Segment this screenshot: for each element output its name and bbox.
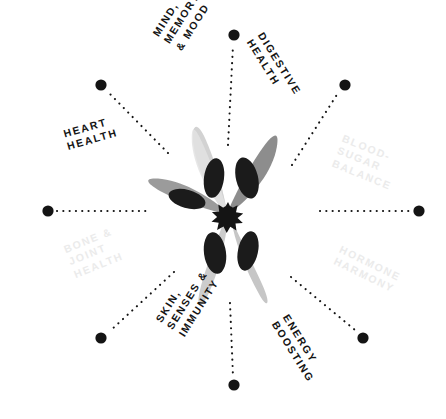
spoke-line-n [228, 45, 233, 145]
spoke-line-ese [291, 277, 355, 330]
spoke-dot-n[interactable] [228, 29, 239, 40]
diagram-canvas: Heart Health Mind, Memory & Mood Digesti… [0, 0, 446, 419]
spoke-dot-nnw[interactable] [95, 79, 106, 90]
spoke-dot-s[interactable] [228, 379, 239, 390]
spoke-dot-ene[interactable] [413, 205, 424, 216]
spoke-dot-wsw[interactable] [95, 332, 106, 343]
radial-diagram-graphic [0, 0, 446, 419]
spoke-dot-w[interactable] [42, 205, 53, 216]
spoke-line-nnw [110, 94, 168, 153]
spoke-line-nne [292, 93, 338, 165]
spoke-dot-ese[interactable] [357, 332, 368, 343]
petal-inner-accents [166, 155, 262, 275]
spoke-dot-nne[interactable] [339, 79, 350, 90]
spoke-line-s [230, 303, 233, 376]
